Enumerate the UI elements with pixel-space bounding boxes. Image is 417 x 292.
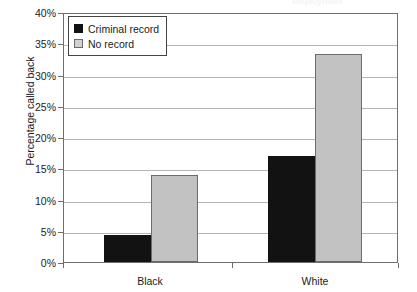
legend-label-no-record: No record bbox=[88, 38, 134, 50]
legend-item-criminal-record: Criminal record bbox=[74, 21, 159, 36]
y-axis-tick-label: 35% bbox=[16, 38, 56, 50]
chart-title-remnant: employment bbox=[292, 0, 402, 8]
x-axis-tick-label: White bbox=[302, 275, 329, 287]
y-axis-tick-label: 30% bbox=[16, 70, 56, 82]
x-axis-tick-label: Black bbox=[137, 275, 163, 287]
y-axis-tick-label: 5% bbox=[16, 226, 56, 238]
bar-white-criminal-record bbox=[268, 156, 315, 262]
bar-black-criminal-record bbox=[104, 235, 151, 262]
y-axis-tick-label: 15% bbox=[16, 163, 56, 175]
x-axis-tick-mark bbox=[232, 263, 233, 268]
y-axis-tick-label: 0% bbox=[16, 257, 56, 269]
legend-swatch-no-record bbox=[74, 39, 83, 48]
bar-chart: employment Percentage called back 40%35%… bbox=[0, 0, 417, 292]
chart-legend: Criminal record No record bbox=[68, 16, 167, 56]
legend-label-criminal-record: Criminal record bbox=[88, 23, 159, 35]
legend-item-no-record: No record bbox=[74, 36, 159, 51]
bar-white-no-record bbox=[315, 54, 362, 262]
x-axis-tick-mark bbox=[398, 263, 399, 268]
y-axis-tick-label: 40% bbox=[16, 7, 56, 19]
y-axis-tick-label: 10% bbox=[16, 195, 56, 207]
x-axis-tick-mark bbox=[63, 263, 64, 268]
legend-swatch-criminal-record bbox=[74, 24, 83, 33]
y-axis-tick-label: 20% bbox=[16, 132, 56, 144]
bar-black-no-record bbox=[151, 175, 198, 263]
y-axis-tick-label: 25% bbox=[16, 101, 56, 113]
